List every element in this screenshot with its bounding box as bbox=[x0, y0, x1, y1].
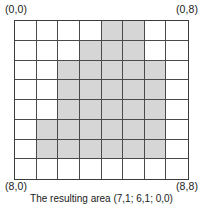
grid-cell bbox=[37, 80, 59, 100]
grid-cell bbox=[123, 21, 145, 41]
grid-cell bbox=[37, 41, 59, 61]
grid-cell bbox=[123, 100, 145, 120]
grid-cell bbox=[37, 61, 59, 81]
grid-cell bbox=[37, 100, 59, 120]
grid-cell bbox=[15, 61, 37, 81]
grid-cell bbox=[80, 140, 102, 160]
grid-cell bbox=[166, 120, 188, 140]
grid-cell bbox=[80, 41, 102, 61]
grid-cell bbox=[145, 120, 167, 140]
grid-cell bbox=[102, 80, 124, 100]
grid-cell bbox=[166, 41, 188, 61]
grid-cell bbox=[58, 159, 80, 179]
grid-cell bbox=[58, 21, 80, 41]
grid-cell bbox=[145, 80, 167, 100]
grid-cell bbox=[145, 140, 167, 160]
grid-cell bbox=[15, 21, 37, 41]
grid-cell bbox=[102, 159, 124, 179]
grid-cell bbox=[80, 159, 102, 179]
grid-cell bbox=[37, 120, 59, 140]
grid-cell bbox=[166, 61, 188, 81]
grid-cell bbox=[102, 120, 124, 140]
grid-cell bbox=[145, 21, 167, 41]
grid-cell bbox=[15, 41, 37, 61]
grid-cell bbox=[15, 120, 37, 140]
grid-cell bbox=[102, 41, 124, 61]
grid-cell bbox=[58, 120, 80, 140]
grid-cell bbox=[166, 159, 188, 179]
grid-cell bbox=[145, 61, 167, 81]
grid-cell bbox=[102, 140, 124, 160]
grid-cell bbox=[37, 159, 59, 179]
grid-cell bbox=[58, 80, 80, 100]
grid-cell bbox=[37, 140, 59, 160]
shaded-grid-figure: (0,0) (0,8) (8,0) (8,8) The resulting ar… bbox=[0, 0, 203, 204]
grid-cell bbox=[15, 159, 37, 179]
grid-cell bbox=[37, 21, 59, 41]
grid-cell bbox=[102, 100, 124, 120]
grid-cell bbox=[102, 21, 124, 41]
cell-grid bbox=[14, 20, 189, 180]
grid-cell bbox=[145, 100, 167, 120]
grid-cell bbox=[123, 41, 145, 61]
grid-cell bbox=[166, 140, 188, 160]
grid-cell bbox=[123, 140, 145, 160]
grid-cell bbox=[145, 41, 167, 61]
grid-cell bbox=[80, 120, 102, 140]
corner-label-top-right: (0,8) bbox=[176, 3, 198, 15]
grid-cell bbox=[80, 80, 102, 100]
grid-cell bbox=[123, 80, 145, 100]
grid-cell bbox=[58, 100, 80, 120]
corner-label-bottom-right: (8,8) bbox=[176, 180, 198, 192]
grid-cell bbox=[123, 120, 145, 140]
figure-caption: The resulting area (7,1; 6,1; 0,0) bbox=[0, 193, 203, 204]
grid-cell bbox=[15, 80, 37, 100]
grid-cell bbox=[15, 100, 37, 120]
grid-cell bbox=[15, 140, 37, 160]
grid-cell bbox=[166, 21, 188, 41]
grid-cell bbox=[166, 80, 188, 100]
grid-cell bbox=[80, 61, 102, 81]
corner-label-top-left: (0,0) bbox=[5, 3, 27, 15]
grid-cell bbox=[123, 61, 145, 81]
grid-container bbox=[14, 20, 189, 180]
grid-cell bbox=[123, 159, 145, 179]
corner-label-bottom-left: (8,0) bbox=[5, 180, 27, 192]
grid-cell bbox=[145, 159, 167, 179]
grid-cell bbox=[166, 100, 188, 120]
grid-cell bbox=[80, 21, 102, 41]
grid-cell bbox=[58, 61, 80, 81]
grid-cell bbox=[58, 41, 80, 61]
grid-cell bbox=[80, 100, 102, 120]
grid-cell bbox=[58, 140, 80, 160]
grid-cell bbox=[102, 61, 124, 81]
